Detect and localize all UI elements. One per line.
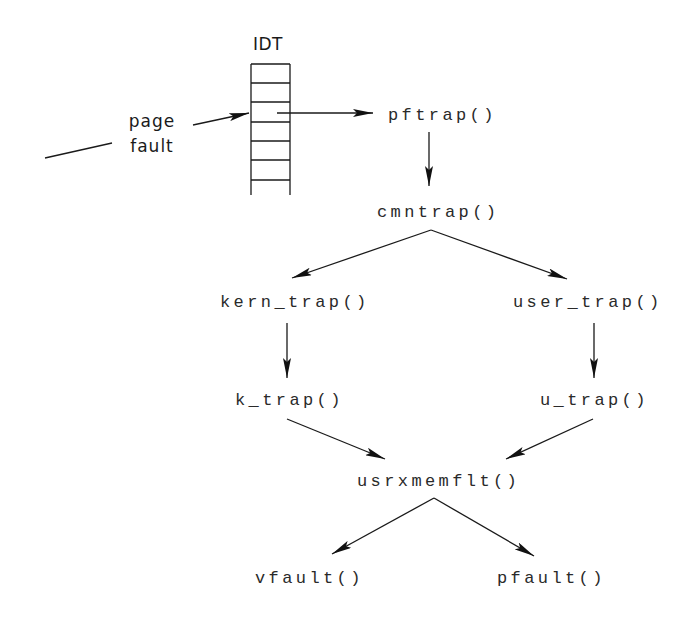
arrow-cmntrap-to-kern-trap <box>292 230 431 278</box>
node-usrxmemflt: usrxmemflt() <box>357 472 520 491</box>
node-k-trap: k_trap() <box>235 391 344 410</box>
idt-title: IDT <box>253 34 283 54</box>
node-kern-trap: kern_trap() <box>220 293 370 312</box>
page-fault-label-line1: page <box>129 111 175 131</box>
page-fault-label-line2: fault <box>130 136 174 156</box>
node-pfault: pfault() <box>497 569 606 588</box>
node-user-trap: user_trap() <box>513 293 663 312</box>
arrow-usrxmemflt-to-vfault <box>332 498 434 554</box>
node-cmntrap: cmntrap() <box>377 203 499 222</box>
node-pftrap: pftrap() <box>388 106 497 125</box>
stray-line <box>45 143 112 158</box>
arrow-k-trap-to-usrxmemflt <box>287 419 385 459</box>
trap-flow-diagram: page fault IDT pftrap() cmntrap() kern_t… <box>0 0 691 618</box>
node-vfault: vfault() <box>255 569 364 588</box>
arrow-cmntrap-to-user-trap <box>431 230 567 279</box>
arrow-usrxmemflt-to-pfault <box>434 498 534 556</box>
arrow-pagefault-to-idt <box>193 113 249 125</box>
arrow-u-trap-to-usrxmemflt <box>506 419 593 459</box>
idt-table <box>251 64 290 195</box>
node-u-trap: u_trap() <box>540 391 649 410</box>
